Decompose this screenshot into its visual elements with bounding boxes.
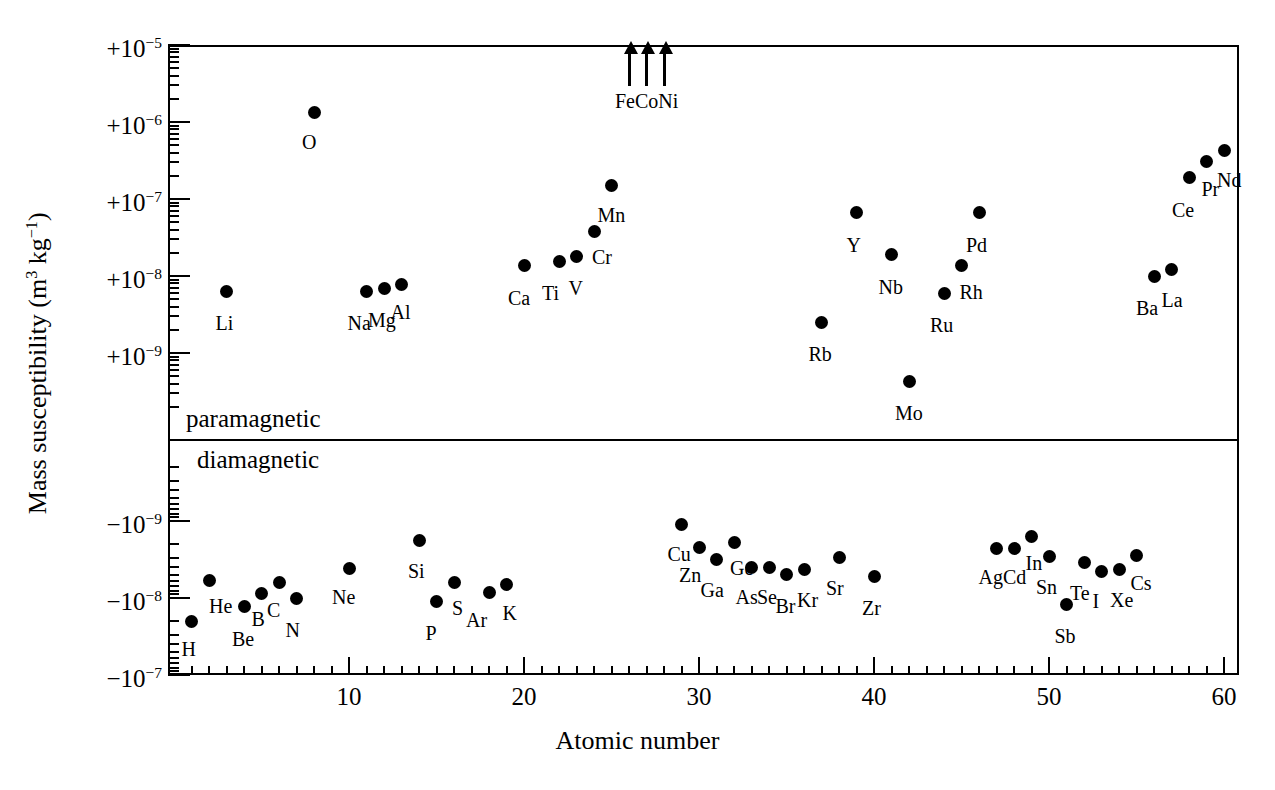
y-minor-tick-neg [168,566,179,568]
y-minor-tick-neg [168,508,179,510]
x-tick-label-40: 40 [844,684,904,709]
x-axis-title: Atomic number [0,726,1275,756]
y-minor-tick-neg [168,513,179,515]
y-minor-tick-neg [168,585,179,587]
data-point-Nb [885,248,898,261]
y-minor-tick-pos [168,152,179,154]
y-minor-tick-pos [168,315,179,317]
y-minor-tick-neg [168,593,179,595]
data-point-As [745,561,758,574]
y-minor-tick-pos [168,406,179,408]
data-point-Pd [973,206,986,219]
data-point-label-K: K [503,603,517,623]
data-point-label-C: C [267,600,280,620]
x-tick-minor-27 [646,666,648,675]
data-point-label-I: I [1093,591,1100,611]
x-tick-minor-2 [208,666,210,675]
x-tick-minor-24 [593,666,595,675]
data-point-label-Nb: Nb [879,277,903,297]
y-minor-tick-pos [168,175,179,177]
ferro-arrow-shaft-Fe [628,52,631,86]
y-minor-tick-pos [168,238,179,240]
y-minor-tick-pos [168,392,179,394]
data-point-B [255,587,268,600]
data-point-Sr [833,551,846,564]
x-tick-minor-11 [366,666,368,675]
data-point-Ar [483,586,496,599]
data-point-label-Cs: Cs [1131,573,1152,593]
data-point-label-Se: Se [757,587,777,607]
y-minor-tick-pos [168,202,179,204]
data-point-label-Ag: Ag [979,567,1003,587]
data-point-Cu [675,518,688,531]
y-minor-tick-pos [168,229,179,231]
x-tick-major-20 [523,657,526,675]
y-minor-tick-pos [168,161,179,163]
data-point-label-Mo: Mo [895,403,923,423]
x-tick-label-60: 60 [1194,684,1254,709]
data-point-label-Rh: Rh [960,282,983,302]
y-minor-tick-pos [168,210,179,212]
y-minor-tick-neg [168,651,179,653]
data-point-label-Ca: Ca [508,288,530,308]
y-tick-pos-1e-7-tick [168,198,190,201]
data-point-Ru [938,287,951,300]
y-minor-tick-neg [168,620,179,622]
data-point-label-Ru: Ru [930,315,953,335]
x-tick-minor-8 [313,666,315,675]
y-tick-pos-1e-6-tick [168,121,190,124]
y-minor-tick-pos [168,51,179,53]
data-point-Rb [815,316,828,329]
x-tick-minor-51 [1066,666,1068,675]
data-point-S [448,576,461,589]
data-point-Zn [693,541,706,554]
x-tick-minor-38 [838,666,840,675]
y-axis-title-sup-minus1: −1 [23,221,40,238]
x-tick-minor-47 [996,666,998,675]
x-tick-major-60 [1223,657,1226,675]
y-minor-tick-neg [168,574,179,576]
data-point-label-Sn: Sn [1036,577,1057,597]
y-tick-neg-0-tick [168,520,190,523]
data-point-label-Te: Te [1070,583,1090,603]
data-point-label-Li: Li [216,313,234,333]
x-tick-label-30: 30 [669,684,729,709]
data-point-Ti [553,255,566,268]
x-tick-minor-44 [943,666,945,675]
data-point-label-Al: Al [391,302,411,322]
data-point-label-Rb: Rb [809,344,832,364]
data-point-label-Zn: Zn [679,565,701,585]
y-tick-pos-1e-8-tick [168,275,190,278]
x-tick-minor-5 [261,666,263,675]
x-tick-minor-54 [1118,666,1120,675]
data-point-Cs [1130,549,1143,562]
y-minor-tick-pos [168,128,179,130]
y-minor-tick-pos [168,329,179,331]
data-point-label-Cd: Cd [1003,567,1026,587]
data-point-label-Ti: Ti [542,283,559,303]
data-point-Si [413,534,426,547]
data-point-label-S: S [452,598,463,618]
x-tick-minor-9 [331,666,333,675]
diamagnetic-region-label: diamagnetic [197,446,319,474]
x-tick-minor-57 [1171,666,1173,675]
x-tick-major-50 [1048,657,1051,675]
data-point-H [185,615,198,628]
y-axis-title: Mass susceptibility (m3 kg−1) [23,103,54,623]
data-point-Ce [1183,171,1196,184]
ferro-arrow-head-Fe [624,41,638,54]
data-point-Ne [343,562,356,575]
data-point-label-O: O [302,132,316,152]
data-point-label-Ce: Ce [1172,200,1194,220]
y-minor-tick-neg [168,489,179,491]
y-axis-title-prefix: Mass susceptibility (m [23,279,52,514]
y-minor-tick-pos [168,359,179,361]
data-point-label-In: In [1026,553,1043,573]
x-tick-minor-45 [961,666,963,675]
x-tick-label-20: 20 [494,684,554,709]
data-point-label-Kr: Kr [797,590,818,610]
x-tick-minor-16 [453,666,455,675]
x-tick-minor-48 [1013,666,1015,675]
y-minor-tick-pos [168,215,179,217]
x-tick-minor-37 [821,666,823,675]
